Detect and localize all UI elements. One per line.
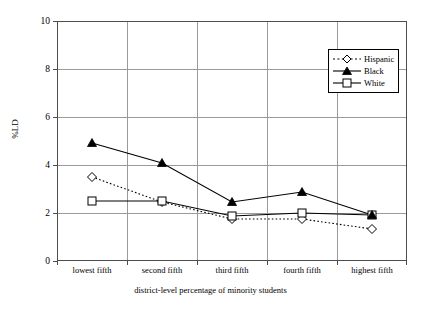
x-tick-label-lowest-fifth: lowest fifth [57,265,127,275]
legend-label-white: White [362,77,385,89]
y-tick-label-2: 2 [10,208,50,218]
x-tick-label-highest-fifth: highest fifth [337,265,407,275]
y-tick-label-8: 8 [10,64,50,74]
legend-swatch-black-triangle-icon [332,65,362,77]
y-tick-label-0: 0 [10,256,50,266]
y-tick-label-4: 4 [10,160,50,170]
y-tick-label-10: 10 [10,16,50,26]
x-tick-label-third-fifth: third fifth [197,265,267,275]
y-axis-title: %LD [10,107,20,151]
y-tick-mark-8 [53,69,57,70]
category-divider-2 [197,22,198,260]
legend: Hispanic Black White [328,49,399,93]
x-tick-label-second-fifth: second fifth [127,265,197,275]
category-divider-3 [267,22,268,260]
line-chart: 10 8 6 4 2 0 %LD lowest fifth second fif… [0,0,421,318]
y-tick-mark-6 [53,117,57,118]
gridline-6 [58,117,406,118]
legend-swatch-hispanic-diamond-icon [332,53,362,65]
legend-swatch-white-square-icon [332,77,362,89]
legend-label-black: Black [362,65,384,77]
y-tick-mark-4 [53,165,57,166]
y-tick-mark-2 [53,213,57,214]
legend-item-black: Black [332,65,394,77]
x-tick-label-fourth-fifth: fourth fifth [267,265,337,275]
gridline-4 [58,165,406,166]
y-tick-mark-10 [53,21,57,22]
gridline-2 [58,213,406,214]
category-divider-1 [127,22,128,260]
legend-label-hispanic: Hispanic [362,53,394,65]
legend-item-white: White [332,77,394,89]
legend-item-hispanic: Hispanic [332,53,394,65]
x-axis-title: district-level percentage of minority st… [0,285,421,295]
